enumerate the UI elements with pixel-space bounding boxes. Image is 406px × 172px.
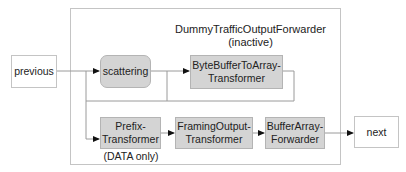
node-bytebuffer-to-array-transformer: ByteBufferToArray- Transformer: [190, 55, 283, 89]
node-next: next: [354, 116, 399, 148]
node-previous-label: previous: [14, 65, 54, 78]
node-framing-line2: Transformer: [186, 133, 243, 146]
node-bytebuffer-line1: ByteBufferToArray-: [192, 59, 281, 72]
node-previous: previous: [11, 55, 57, 88]
node-prefix-line1: Prefix-: [115, 120, 145, 133]
node-bufferarray-line1: BufferArray-: [267, 120, 323, 133]
node-framing-output-transformer: FramingOutput- Transformer: [175, 117, 253, 149]
prefix-caption: (DATA only): [96, 150, 166, 162]
node-bytebuffer-line2: Transformer: [208, 72, 265, 85]
node-prefix-transformer: Prefix- Transformer: [100, 117, 161, 149]
node-prefix-line2: Transformer: [102, 133, 159, 146]
node-scattering: scattering: [100, 55, 151, 88]
node-framing-line1: FramingOutput-: [177, 120, 251, 133]
node-bufferarray-line2: Forwarder: [271, 133, 319, 146]
node-next-label: next: [367, 126, 387, 139]
node-buffer-array-forwarder: BufferArray- Forwarder: [265, 117, 325, 149]
node-scattering-label: scattering: [103, 65, 149, 78]
